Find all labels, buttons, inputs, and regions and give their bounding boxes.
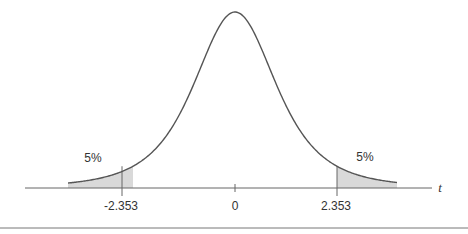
center-value-label: 0 — [232, 199, 239, 213]
left-critical-value-label: -2.353 — [104, 199, 138, 213]
density-curve — [68, 12, 397, 183]
left-tail-shaded-area — [68, 166, 133, 188]
left-tail-percent-label: 5% — [84, 151, 102, 165]
x-axis-variable-label: t — [438, 180, 442, 195]
right-critical-value-label: 2.353 — [321, 199, 351, 213]
t-distribution-chart: 5% 5% -2.353 0 2.353 t — [0, 0, 468, 234]
right-tail-percent-label: 5% — [356, 150, 374, 164]
